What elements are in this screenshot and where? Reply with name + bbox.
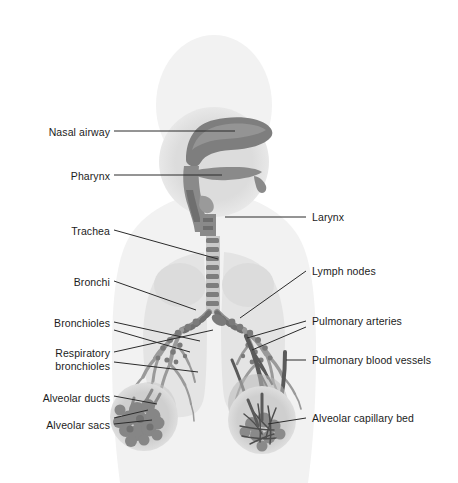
label-pharynx: Pharynx xyxy=(18,170,110,183)
label-bronchioles: Bronchioles xyxy=(18,317,110,330)
label-alveolar-capillary-bed: Alveolar capillary bed xyxy=(312,412,457,425)
label-alveolar-ducts: Alveolar ducts xyxy=(18,392,110,405)
label-pulmonary-arteries: Pulmonary arteries xyxy=(312,315,452,328)
label-lymph-nodes: Lymph nodes xyxy=(312,265,452,278)
label-nasal-airway: Nasal airway xyxy=(18,126,110,139)
label-trachea: Trachea xyxy=(18,225,110,238)
respiratory-system-figure: Nasal airway Pharynx Trachea Bronchi Bro… xyxy=(0,0,458,483)
label-pulmonary-blood-vessels: Pulmonary blood vessels xyxy=(312,354,457,367)
label-respiratory-bronchioles: Respiratory bronchioles xyxy=(18,347,110,372)
anatomy-illustration xyxy=(0,0,458,483)
alveolar-capillary-bed-inset xyxy=(228,386,296,454)
label-larynx: Larynx xyxy=(312,211,452,224)
label-bronchi: Bronchi xyxy=(18,276,110,289)
label-alveolar-sacs: Alveolar sacs xyxy=(18,419,110,432)
trachea xyxy=(206,236,220,314)
